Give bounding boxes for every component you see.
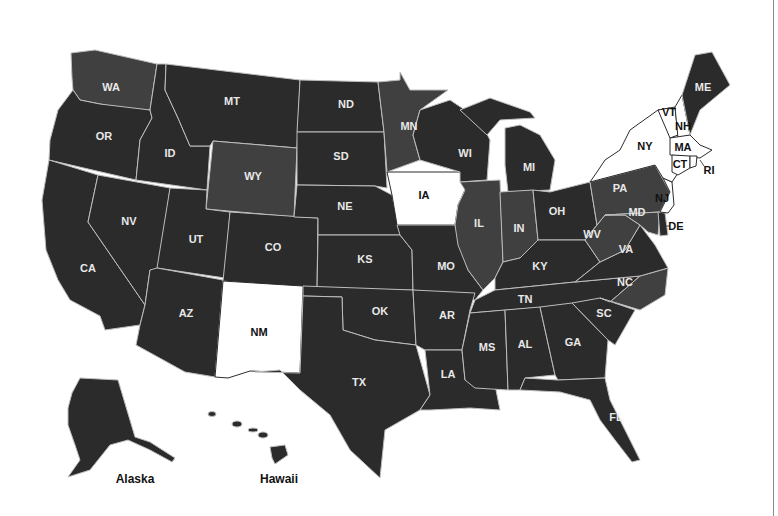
label-mi: MI	[523, 161, 535, 173]
inset-hawaii[interactable]	[208, 412, 288, 465]
label-ok: OK	[372, 305, 389, 317]
label-alaska: Alaska	[116, 472, 155, 486]
label-ca: CA	[80, 262, 96, 274]
page-edge-rule	[773, 0, 774, 516]
label-nd: ND	[338, 98, 354, 110]
label-ky: KY	[532, 260, 548, 272]
state-de[interactable]	[658, 212, 668, 236]
label-ia: IA	[419, 189, 430, 201]
label-or: OR	[96, 130, 113, 142]
label-sc: SC	[596, 307, 611, 319]
label-nh: NH	[675, 120, 691, 132]
label-tn: TN	[518, 293, 533, 305]
label-la: LA	[441, 368, 456, 380]
label-ri: RI	[704, 164, 715, 176]
label-sd: SD	[333, 150, 348, 162]
label-ks: KS	[357, 253, 372, 265]
label-il: IL	[474, 217, 484, 229]
label-va: VA	[619, 243, 634, 255]
label-tx: TX	[352, 376, 367, 388]
label-az: AZ	[179, 307, 194, 319]
label-md: MD	[628, 206, 645, 218]
label-nj: NJ	[655, 192, 669, 204]
state-mi[interactable]	[505, 125, 555, 192]
label-vt: VT	[662, 106, 676, 118]
label-ut: UT	[189, 233, 204, 245]
label-nv: NV	[121, 215, 137, 227]
label-de: DE	[668, 220, 683, 232]
label-co: CO	[265, 241, 282, 253]
label-wa: WA	[102, 81, 120, 93]
state-az[interactable]	[136, 268, 223, 377]
label-mn: MN	[400, 120, 417, 132]
label-nm: NM	[250, 326, 267, 338]
label-ny: NY	[637, 140, 653, 152]
label-wy: WY	[244, 170, 262, 182]
label-ne: NE	[337, 200, 352, 212]
label-ma: MA	[674, 141, 691, 153]
label-al: AL	[518, 338, 533, 350]
us-state-map: WA OR CA ID NV MT WY UT AZ CO NM ND SD N…	[0, 0, 778, 516]
label-ar: AR	[439, 309, 455, 321]
inset-alaska[interactable]	[68, 378, 175, 477]
label-mo: MO	[437, 260, 455, 272]
label-me: ME	[695, 81, 712, 93]
label-ga: GA	[565, 336, 582, 348]
label-mt: MT	[224, 95, 240, 107]
label-nc: NC	[617, 276, 633, 288]
label-wv: WV	[583, 228, 601, 240]
label-pa: PA	[613, 182, 628, 194]
label-wi: WI	[458, 147, 471, 159]
label-fl: FL	[609, 411, 623, 423]
label-in: IN	[514, 222, 525, 234]
label-ms: MS	[479, 341, 496, 353]
label-hawaii: Hawaii	[260, 472, 298, 486]
state-ri[interactable]	[690, 156, 697, 168]
label-id: ID	[165, 147, 176, 159]
label-ct: CT	[673, 158, 688, 170]
label-oh: OH	[549, 205, 566, 217]
